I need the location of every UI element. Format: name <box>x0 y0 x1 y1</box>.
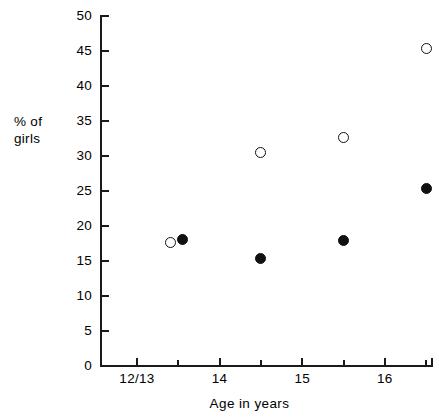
y-axis-tick <box>102 120 109 122</box>
x-axis-tick-end <box>431 358 433 366</box>
y-axis-tick-label: 15 <box>66 254 92 268</box>
y-axis-tick <box>102 15 109 17</box>
x-axis-tick-label: 15 <box>294 371 310 386</box>
data-point-filled-circle <box>255 253 266 264</box>
y-axis-tick-label: 50 <box>66 9 92 23</box>
y-axis-tick-label: 40 <box>66 79 92 93</box>
x-axis-tick-minor <box>425 360 427 366</box>
y-axis-tick <box>102 225 109 227</box>
data-point-open-circle <box>421 43 432 54</box>
data-point-filled-circle <box>421 183 432 194</box>
y-axis-tick <box>102 190 109 192</box>
y-axis-tick <box>102 260 109 262</box>
y-axis-tick-label: 0 <box>66 359 92 373</box>
y-axis-tick-label: 30 <box>66 149 92 163</box>
y-axis-tick-label: 35 <box>66 114 92 128</box>
x-axis-tick-minor <box>343 360 345 366</box>
x-axis-tick-minor <box>260 360 262 366</box>
data-point-open-circle <box>338 132 349 143</box>
y-axis-tick-label: 20 <box>66 219 92 233</box>
x-axis-tick-major <box>301 358 303 366</box>
x-axis-tick-major <box>136 358 138 366</box>
x-axis-tick-major <box>219 358 221 366</box>
y-axis-tick <box>102 85 109 87</box>
x-axis-tick-label: 12/13 <box>119 371 154 386</box>
y-axis-tick-label: 25 <box>66 184 92 198</box>
x-axis-title-text: Age in years <box>210 396 290 411</box>
y-axis-tick <box>102 155 109 157</box>
x-axis-tick-minor <box>177 360 179 366</box>
data-point-filled-circle <box>338 235 349 246</box>
y-axis-tick <box>102 365 109 367</box>
y-axis-tick-label: 10 <box>66 289 92 303</box>
data-point-open-circle <box>255 147 266 158</box>
x-axis-tick-major <box>384 358 386 366</box>
x-axis-tick-label: 16 <box>377 371 393 386</box>
x-axis-title: Age in years <box>0 396 439 411</box>
y-axis-tick <box>102 330 109 332</box>
y-axis-tick-label: 5 <box>66 324 92 338</box>
y-axis-title: % of girls <box>14 113 42 147</box>
y-axis-tick <box>102 50 109 52</box>
x-axis-tick-label: 14 <box>212 371 228 386</box>
data-point-open-circle <box>165 237 176 248</box>
y-axis-tick <box>102 295 109 297</box>
data-point-filled-circle <box>177 234 188 245</box>
scatter-chart-figure: 05101520253035404550 12/13141516 % of gi… <box>0 0 439 420</box>
y-axis-tick-label: 45 <box>66 44 92 58</box>
